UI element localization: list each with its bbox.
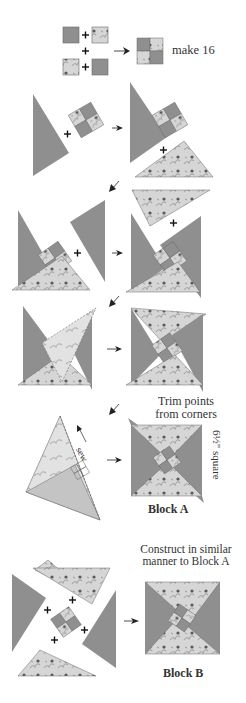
step-2-pieces: [33, 94, 104, 176]
arrow-right-icon: [114, 47, 130, 55]
plus-icon: [51, 637, 58, 644]
four-patch-rotated: [68, 102, 104, 138]
arrow-down-left-icon: [109, 181, 119, 192]
construct-note: Construct in similar manner to Block A: [128, 543, 244, 567]
plus-icon: [82, 64, 89, 71]
construction-diagram: [0, 0, 246, 703]
block-a-label: Block A: [148, 503, 188, 516]
step-6-block-b-pieces: [12, 560, 116, 676]
arrow-right-icon: [124, 618, 139, 624]
plus-icon: [82, 48, 89, 55]
step-3-pieces: [12, 200, 105, 290]
arrow-right-icon: [112, 125, 123, 131]
step-5-sewing: [26, 416, 100, 520]
block-a: [128, 418, 204, 503]
sew-arrow-icon: [77, 425, 86, 442]
floral-square: [63, 59, 79, 75]
plus-icon: [64, 131, 71, 138]
plus-icon: [160, 147, 167, 154]
make-16-label: make 16: [172, 44, 215, 57]
arrow-down-left-icon: [109, 404, 119, 415]
trim-note-line-1: Trim points: [140, 395, 232, 408]
dark-triangle: [70, 200, 105, 282]
block-b-label: Block B: [163, 667, 203, 680]
floral-square: [92, 27, 108, 43]
dark-square: [63, 27, 79, 43]
step-4-result: [126, 308, 206, 392]
plus-icon: [81, 627, 88, 634]
plus-icon: [74, 250, 81, 257]
construct-note-line-2: manner to Block A: [128, 555, 244, 567]
step-1-result-four-patch: [137, 38, 163, 64]
plus-icon: [170, 220, 177, 227]
dark-square: [92, 59, 108, 75]
block-b: [145, 582, 220, 654]
size-label: 6½" square: [210, 430, 222, 480]
arrow-down-left-icon: [109, 296, 119, 307]
step-2-result: [130, 82, 213, 177]
plus-icon: [44, 607, 51, 614]
trim-note-line-2: from corners: [140, 408, 232, 421]
step-3-result: [126, 190, 210, 298]
step-4-pieces: [18, 306, 96, 390]
dark-triangle: [33, 94, 69, 176]
arrow-right-icon: [112, 250, 123, 256]
arrow-right-icon: [107, 457, 122, 463]
arrow-right-icon: [107, 346, 122, 352]
plus-icon: [82, 32, 89, 39]
construct-note-line-1: Construct in similar: [128, 543, 244, 555]
trim-note: Trim points from corners: [140, 395, 232, 420]
